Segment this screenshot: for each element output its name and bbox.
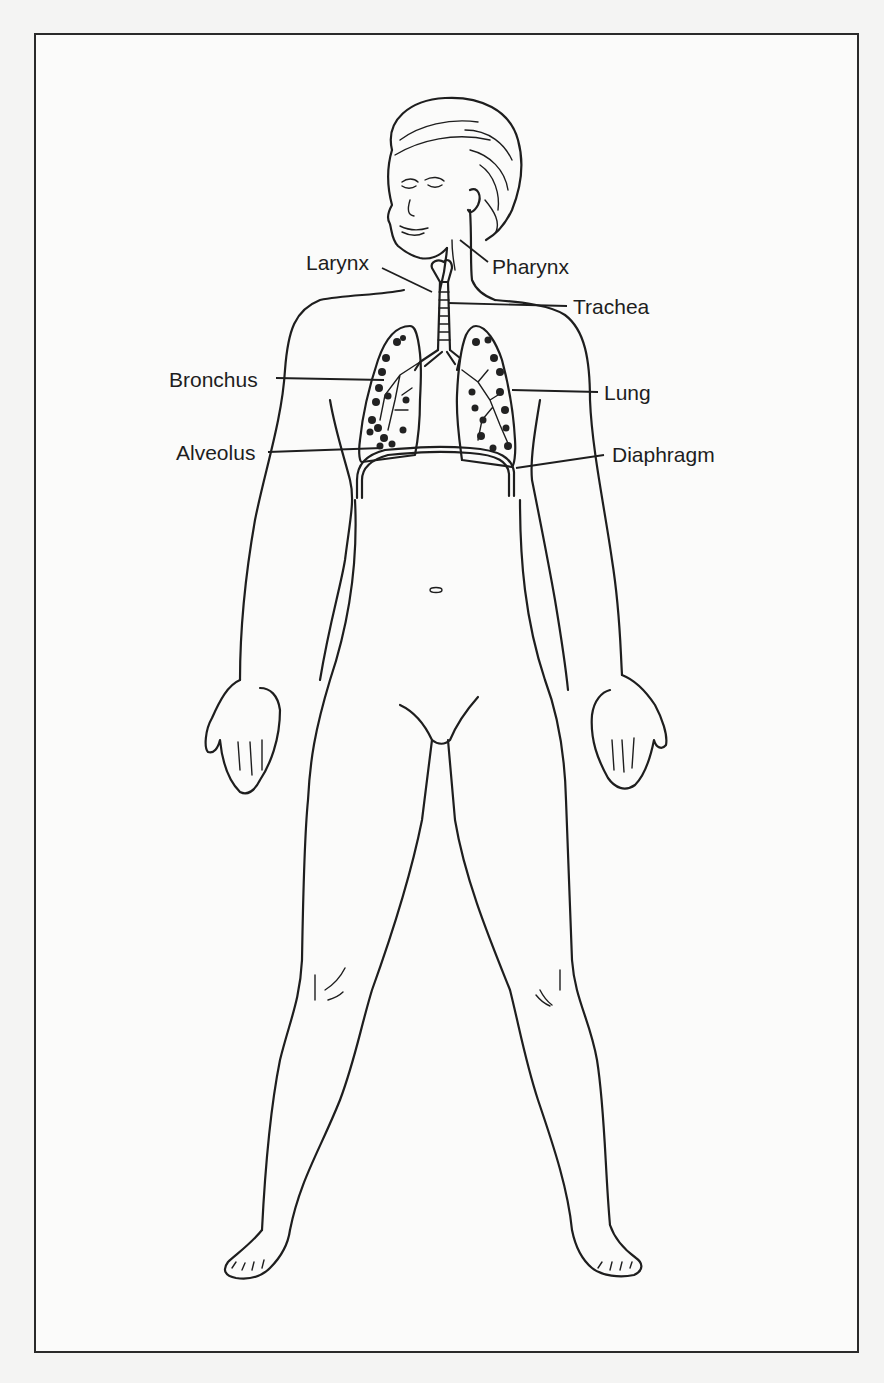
body-outline	[240, 290, 622, 1230]
label-bronchus: Bronchus	[169, 369, 258, 390]
left-arm-inner	[320, 400, 352, 680]
leader-bronchus	[276, 378, 384, 380]
right-hip	[520, 500, 572, 960]
label-larynx: Larynx	[306, 252, 369, 273]
face-outline	[388, 150, 447, 259]
leader-lung	[512, 390, 598, 392]
right-leg-outer	[572, 960, 610, 1225]
trachea	[415, 260, 460, 370]
hair-outline	[391, 98, 522, 240]
navel	[430, 588, 442, 593]
right-lung	[457, 326, 515, 467]
leader-diaphragm	[516, 455, 604, 468]
right-hand	[592, 675, 667, 789]
right-foot	[572, 1225, 641, 1276]
left-foot	[225, 1230, 290, 1279]
left-leg-inner	[290, 740, 432, 1230]
label-diaphragm: Diaphragm	[612, 444, 715, 465]
left-hand	[206, 680, 280, 793]
leader-larynx	[382, 268, 432, 292]
left-lung	[359, 326, 421, 462]
diaphragm	[357, 447, 514, 498]
label-trachea: Trachea	[573, 296, 649, 317]
leader-trachea	[448, 303, 567, 306]
left-leg-outer	[262, 960, 302, 1230]
label-alveolus: Alveolus	[176, 442, 255, 463]
leader-alveolus	[268, 448, 382, 452]
leader-pharynx	[460, 240, 488, 262]
groin	[400, 697, 478, 744]
left-hip	[302, 500, 356, 960]
human-figure-illustration	[0, 0, 884, 1383]
left-arm-outer	[240, 290, 404, 680]
right-leg-inner	[448, 740, 572, 1230]
label-pharynx: Pharynx	[492, 256, 569, 277]
right-arm-inner	[532, 400, 568, 690]
label-lung: Lung	[604, 382, 651, 403]
